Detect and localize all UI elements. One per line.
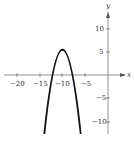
x-tick-label: −15 — [33, 80, 48, 88]
y-tick-label: −10 — [92, 118, 107, 126]
x-tick-label: −10 — [55, 80, 70, 88]
y-axis-arrow-icon — [106, 12, 110, 18]
parabola-curve — [44, 50, 80, 134]
parabola-chart: x y −20 −15 −10 −5 10 5 −5 −10 — [0, 0, 134, 141]
y-tick-label: 10 — [95, 25, 104, 33]
x-axis-arrow-icon — [120, 73, 126, 77]
x-axis-label: x — [127, 71, 131, 79]
x-tick-label: −5 — [81, 80, 91, 88]
y-tick-label: 5 — [99, 48, 103, 56]
y-tick-label: −5 — [96, 94, 106, 102]
y-axis-label: y — [105, 2, 111, 10]
x-tick-label: −20 — [10, 80, 25, 88]
